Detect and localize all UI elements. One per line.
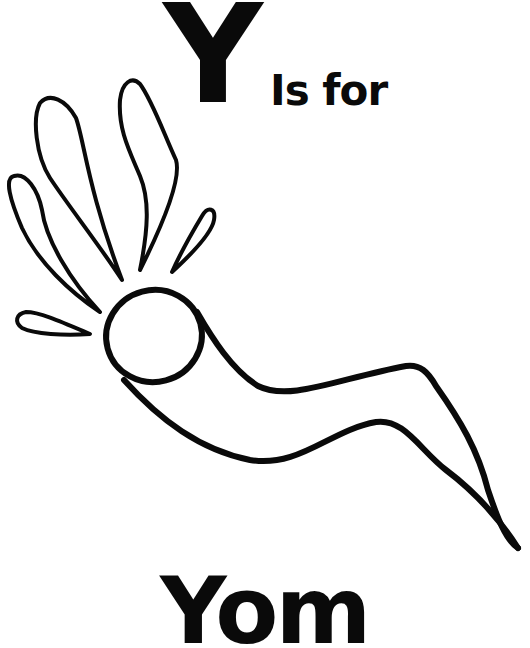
horn-icon <box>96 279 518 548</box>
word-yom: Yom <box>160 566 368 648</box>
